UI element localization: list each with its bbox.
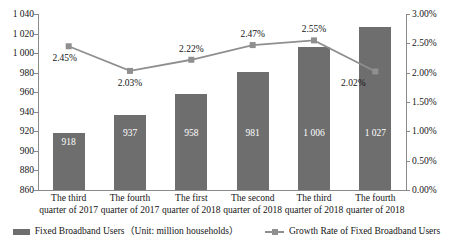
right-axis-tick-mark — [406, 190, 410, 191]
category-label: The fourthquarter of 2017 — [101, 193, 160, 216]
category-label-line: The fourth — [346, 193, 405, 205]
category-label: The firstquarter of 2018 — [162, 193, 221, 216]
right-axis-tick-mark — [406, 43, 410, 44]
left-axis-tick-label: 980 — [20, 68, 34, 78]
right-axis-tick-label: 0.50% — [412, 156, 437, 166]
right-axis-tick-mark — [406, 161, 410, 162]
line-marker[interactable] — [66, 43, 72, 49]
left-axis-tick-label: 1 040 — [13, 9, 34, 19]
category-label-line: The third — [285, 193, 344, 205]
line-marker[interactable] — [127, 68, 133, 74]
bar-swatch-icon — [13, 229, 30, 235]
right-axis-tick-mark — [406, 14, 410, 15]
legend-item-fixed-broadband-users[interactable]: Fixed Broadband Users（Unit: million hous… — [13, 226, 239, 237]
line-marker[interactable] — [311, 37, 317, 43]
growth-rate-label: 2.03% — [118, 78, 143, 88]
right-axis-tick-mark — [406, 102, 410, 103]
growth-rate-label: 2.22% — [179, 44, 204, 54]
category-label-line: quarter of 2017 — [39, 205, 98, 217]
right-axis-tick-label: 0.00% — [412, 185, 437, 195]
left-axis-tick-mark — [34, 190, 38, 191]
category-label-line: The third — [39, 193, 98, 205]
category-label: The thirdquarter of 2018 — [285, 193, 344, 216]
right-axis-tick-mark — [406, 131, 410, 132]
line-swatch-icon — [265, 228, 284, 235]
x-axis-line — [38, 190, 407, 191]
left-axis-tick-label: 900 — [20, 146, 34, 156]
category-label-line: quarter of 2018 — [162, 205, 221, 217]
growth-rate-label: 2.47% — [240, 29, 265, 39]
category-label: The fourthquarter of 2018 — [346, 193, 405, 216]
chart-legend: Fixed Broadband Users（Unit: million hous… — [0, 226, 453, 237]
category-label-line: quarter of 2017 — [101, 205, 160, 217]
category-label-line: quarter of 2018 — [223, 205, 282, 217]
right-axis-tick-label: 1.00% — [412, 126, 437, 136]
right-axis-tick-label: 1.50% — [412, 97, 437, 107]
legend-item-growth-rate[interactable]: Growth Rate of Fixed Broadband Users — [265, 226, 440, 237]
left-axis-tick-label: 920 — [20, 126, 34, 136]
right-axis-tick-label: 3.00% — [412, 9, 437, 19]
category-label-line: The first — [162, 193, 221, 205]
line-marker[interactable] — [372, 68, 378, 74]
line-marker[interactable] — [250, 42, 256, 48]
category-label-line: quarter of 2018 — [346, 205, 405, 217]
chart-container: 8608809009209409609801 0001 0201 040 0.0… — [0, 0, 453, 248]
right-axis-tick-label: 2.50% — [412, 38, 437, 48]
plot-area: 9189379589811 0061 027 — [38, 14, 406, 190]
right-axis-tick-mark — [406, 73, 410, 74]
line-series — [38, 14, 406, 190]
left-axis-tick-label: 940 — [20, 107, 34, 117]
growth-rate-label: 2.45% — [52, 53, 77, 63]
left-axis-tick-label: 860 — [20, 185, 34, 195]
left-axis-tick-label: 1 020 — [13, 29, 34, 39]
right-axis-tick-label: 2.00% — [412, 68, 437, 78]
category-label-line: quarter of 2018 — [285, 205, 344, 217]
left-axis-tick-label: 960 — [20, 87, 34, 97]
left-axis-tick-label: 1 000 — [13, 48, 34, 58]
legend-label-bar: Fixed Broadband Users（Unit: million hous… — [35, 226, 239, 237]
left-axis-tick-label: 880 — [20, 165, 34, 175]
growth-rate-label: 2.02% — [341, 78, 366, 88]
growth-rate-markers — [66, 37, 379, 74]
growth-rate-label: 2.55% — [302, 24, 327, 34]
category-label: The secondquarter of 2018 — [223, 193, 282, 216]
legend-label-line: Growth Rate of Fixed Broadband Users — [289, 226, 440, 237]
category-label-line: The second — [223, 193, 282, 205]
category-label-line: The fourth — [101, 193, 160, 205]
category-label: The thirdquarter of 2017 — [39, 193, 98, 216]
line-marker[interactable] — [188, 57, 194, 63]
growth-rate-line — [69, 40, 376, 71]
